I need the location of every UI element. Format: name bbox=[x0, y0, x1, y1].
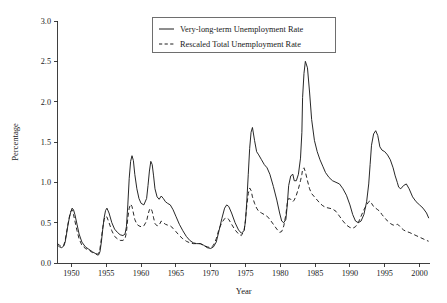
x-tick-label: 1990 bbox=[342, 269, 358, 278]
axes-layer bbox=[54, 21, 430, 267]
series-layer bbox=[58, 61, 429, 255]
x-tick-label: 1995 bbox=[377, 269, 393, 278]
svg-text:Percentage: Percentage bbox=[10, 123, 20, 161]
x-tick-label: 1975 bbox=[237, 269, 253, 278]
y-tick-label: 2.5 bbox=[41, 57, 51, 66]
legend-item-1: Very-long-term Unemployment Rate bbox=[159, 25, 304, 34]
y-tick-label: 0.5 bbox=[41, 219, 51, 228]
x-tick-label: 1950 bbox=[63, 269, 79, 278]
y-tick-label: 1.0 bbox=[41, 178, 51, 187]
x-tick-label: 1965 bbox=[168, 269, 184, 278]
chart-figure: 1950195519601965197019751980198519901995… bbox=[0, 0, 447, 303]
legend-item-2: Rescaled Total Unemployment Rate bbox=[159, 40, 301, 49]
x-tick-label: 1985 bbox=[307, 269, 323, 278]
x-tick-label: 1970 bbox=[202, 269, 218, 278]
line-chart: 1950195519601965197019751980198519901995… bbox=[0, 0, 447, 303]
y-tick-label: 1.5 bbox=[41, 138, 51, 147]
y-tick-label: 0.0 bbox=[41, 259, 51, 268]
x-tick-label: 1980 bbox=[272, 269, 288, 278]
y-tick-label: 3.0 bbox=[41, 17, 51, 26]
legend-label: Very-long-term Unemployment Rate bbox=[180, 25, 304, 34]
x-tick-label: 1955 bbox=[98, 269, 114, 278]
y-tick-label: 2.0 bbox=[41, 98, 51, 107]
chart-legend: Very-long-term Unemployment RateRescaled… bbox=[152, 17, 335, 52]
x-tick-label: 2000 bbox=[411, 269, 427, 278]
series-line-1 bbox=[58, 61, 429, 255]
axis-labels-layer: 1950195519601965197019751980198519901995… bbox=[10, 17, 428, 296]
legend-label: Rescaled Total Unemployment Rate bbox=[180, 40, 301, 49]
x-axis-title: Year bbox=[236, 286, 252, 296]
y-axis-title: Percentage bbox=[10, 123, 20, 161]
series-line-2 bbox=[58, 168, 429, 254]
x-tick-label: 1960 bbox=[133, 269, 149, 278]
